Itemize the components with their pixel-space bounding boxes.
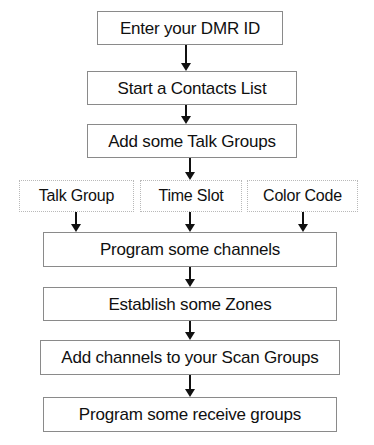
arrow-zones-to-scangroups-icon bbox=[184, 321, 196, 340]
arrow-head bbox=[181, 63, 191, 71]
flow-node-label: Color Code bbox=[263, 188, 342, 204]
arrow-stem bbox=[185, 45, 187, 64]
flow-node-label: Time Slot bbox=[158, 188, 223, 204]
arrow-timeslot-to-channels-icon bbox=[184, 212, 196, 232]
arrow-head bbox=[185, 389, 195, 397]
flow-node-label: Start a Contacts List bbox=[118, 79, 267, 96]
arrow-channels-to-zones-icon bbox=[184, 267, 196, 287]
arrow-scangroups-to-receive-icon bbox=[184, 375, 196, 397]
arrow-stem bbox=[189, 158, 191, 173]
flow-node-label: Program some channels bbox=[100, 241, 280, 258]
flow-node-establish-zones: Establish some Zones bbox=[43, 287, 337, 321]
arrow-head bbox=[185, 172, 195, 180]
arrow-colorcode-to-channels-icon bbox=[297, 212, 309, 232]
flow-node-program-channels: Program some channels bbox=[43, 232, 337, 267]
flow-node-label: Enter your DMR ID bbox=[120, 19, 260, 36]
flow-node-label: Add channels to your Scan Groups bbox=[61, 349, 318, 366]
arrow-dmrid-to-contacts-icon bbox=[180, 45, 192, 71]
arrow-head bbox=[298, 224, 308, 232]
flow-node-label: Program some receive groups bbox=[79, 406, 301, 423]
arrow-stem bbox=[189, 375, 191, 390]
flow-node-label: Establish some Zones bbox=[108, 295, 271, 312]
flow-node-add-channels-scan-groups: Add channels to your Scan Groups bbox=[40, 340, 340, 375]
arrow-head bbox=[185, 224, 195, 232]
arrow-talkgroup-to-channels-icon bbox=[70, 212, 82, 232]
arrow-head bbox=[181, 116, 191, 124]
flow-node-time-slot: Time Slot bbox=[140, 180, 242, 212]
flowchart-canvas: Enter your DMR IDStart a Contacts ListAd… bbox=[0, 0, 374, 445]
flow-node-color-code: Color Code bbox=[247, 180, 358, 212]
flow-node-label: Talk Group bbox=[39, 188, 114, 204]
flow-node-start-contacts-list: Start a Contacts List bbox=[87, 71, 297, 105]
arrow-head bbox=[185, 332, 195, 340]
arrow-head bbox=[71, 224, 81, 232]
arrow-contacts-to-talkgroups-icon bbox=[180, 105, 192, 124]
flow-node-enter-dmr-id: Enter your DMR ID bbox=[97, 11, 283, 45]
flow-node-add-talk-groups: Add some Talk Groups bbox=[87, 124, 297, 158]
flow-node-program-receive-groups: Program some receive groups bbox=[43, 397, 337, 432]
arrow-talkgroups-to-timeslot-icon bbox=[184, 158, 196, 180]
flow-node-label: Add some Talk Groups bbox=[108, 132, 276, 149]
arrow-head bbox=[185, 279, 195, 287]
flow-node-talk-group: Talk Group bbox=[19, 180, 134, 212]
